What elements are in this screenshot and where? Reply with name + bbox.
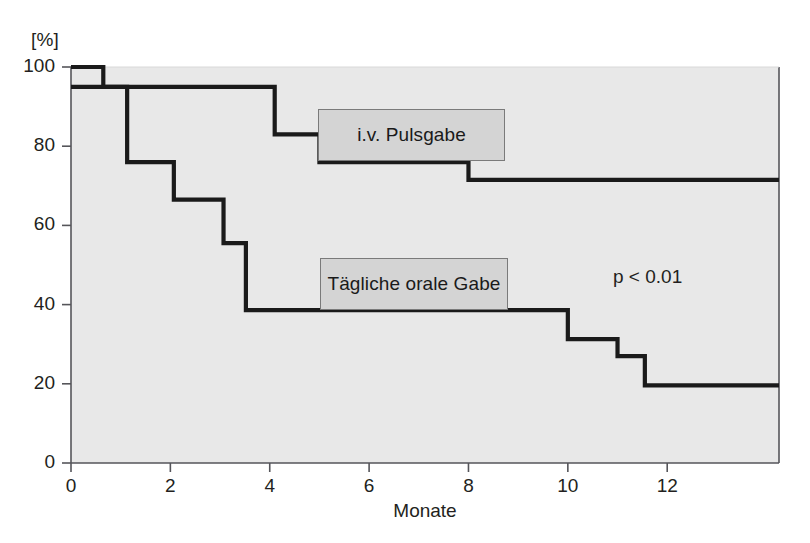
series-callout-iv-pulsgabe: i.v. Pulsgabe <box>318 109 505 161</box>
x-tick-label: 0 <box>41 475 101 497</box>
y-tick-label: 80 <box>0 134 55 156</box>
chart-figure: [%] 020406080100 024681012 Monate i.v. P… <box>0 0 810 543</box>
y-tick-label: 60 <box>0 213 55 235</box>
x-tick-label: 6 <box>339 475 399 497</box>
y-tick-label: 40 <box>0 293 55 315</box>
y-tick-label: 100 <box>0 55 55 77</box>
x-tick-label: 12 <box>637 475 697 497</box>
x-tick-label: 10 <box>538 475 598 497</box>
p-value-annotation: p < 0.01 <box>613 266 682 288</box>
x-axis-title: Monate <box>325 500 525 522</box>
x-tick-label: 8 <box>438 475 498 497</box>
x-tick-label: 4 <box>240 475 300 497</box>
y-axis-unit-label: [%] <box>31 29 59 51</box>
series-callout-taegliche-orale-gabe: Tägliche orale Gabe <box>320 258 508 310</box>
y-tick-label: 20 <box>0 372 55 394</box>
x-axis-ticks <box>71 463 667 472</box>
y-axis-ticks <box>62 67 71 463</box>
x-tick-label: 2 <box>140 475 200 497</box>
y-tick-label: 0 <box>0 451 55 473</box>
